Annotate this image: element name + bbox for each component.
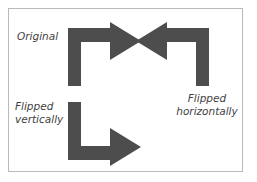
label-original: Original <box>17 30 58 43</box>
label-flipped-vertically: Flipped vertically <box>15 100 63 125</box>
label-flipped-horizontally: Flipped horizontally <box>163 92 251 117</box>
figure-container: Original Flipped vertically Flipped hori… <box>0 0 257 182</box>
arrow-flipped-vertically <box>68 102 141 166</box>
arrow-original <box>68 22 141 86</box>
arrow-flipped-horizontally <box>136 22 209 86</box>
arrow-illustration <box>0 0 257 182</box>
